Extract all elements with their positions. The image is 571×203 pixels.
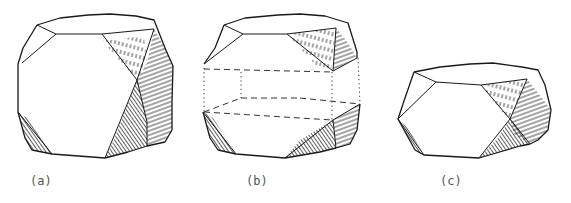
crystal-a (18, 14, 173, 158)
panel-label-a: (a) (30, 174, 52, 188)
crystal-c (398, 63, 551, 158)
panel-label-c: (c) (440, 174, 462, 188)
crystal-drawings (0, 0, 571, 203)
crystal-b (203, 14, 360, 158)
crystal-figure: (a) (b) (c) (0, 0, 571, 203)
panel-label-b: (b) (246, 174, 268, 188)
